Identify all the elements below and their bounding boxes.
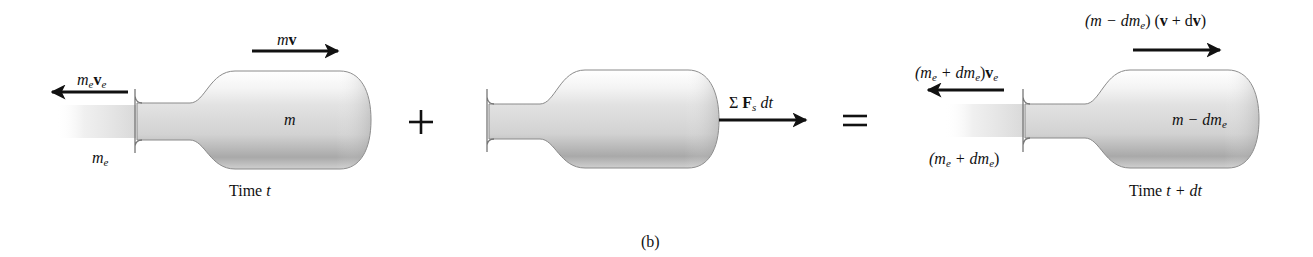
- momentum-label: mv: [277, 32, 297, 48]
- body-mass-label: m: [284, 112, 296, 128]
- body-mass-label: m − dme: [1172, 112, 1227, 130]
- rocket-impulse: [487, 70, 806, 168]
- exhaust-plume: [56, 105, 136, 138]
- plus-sign: [409, 110, 433, 134]
- time-label: Time t + dt: [1129, 183, 1202, 199]
- force-impulse-label: Σ Fs dt: [729, 95, 773, 113]
- exhaust-mass-label: (me + dme): [929, 151, 999, 169]
- momentum-label: (m − dme) (v + dv): [1085, 13, 1206, 31]
- exhaust-plume: [945, 104, 1024, 137]
- exhaust-momentum-label: meve: [77, 72, 106, 90]
- figure-caption: (b): [641, 234, 660, 250]
- exhaust-momentum-label: (me + dme)ve: [915, 65, 998, 83]
- equals-sign: [843, 116, 867, 125]
- time-label: Time t: [229, 183, 271, 199]
- exhaust-mass-label: me: [92, 150, 108, 168]
- diagram-stage: meve mv m me Time t Σ Fs dt (m − dme) (v…: [0, 0, 1313, 257]
